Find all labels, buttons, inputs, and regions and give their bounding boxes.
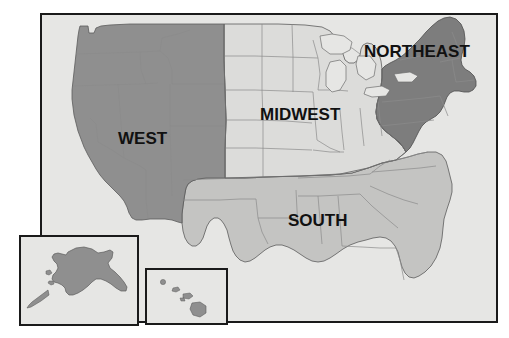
island-lanai: [180, 298, 185, 301]
region-label-south: SOUTH: [288, 211, 348, 230]
hawaii-inset: [146, 269, 227, 324]
region-label-northeast: NORTHEAST: [364, 42, 470, 61]
us-regions-map: WEST MIDWEST SOUTH NORTHEAST: [0, 0, 509, 338]
region-label-west: WEST: [118, 129, 168, 148]
island-kauai: [160, 279, 165, 284]
alaska-inset: [20, 236, 138, 325]
map-canvas: WEST MIDWEST SOUTH NORTHEAST: [0, 0, 509, 338]
region-label-midwest: MIDWEST: [260, 105, 341, 124]
